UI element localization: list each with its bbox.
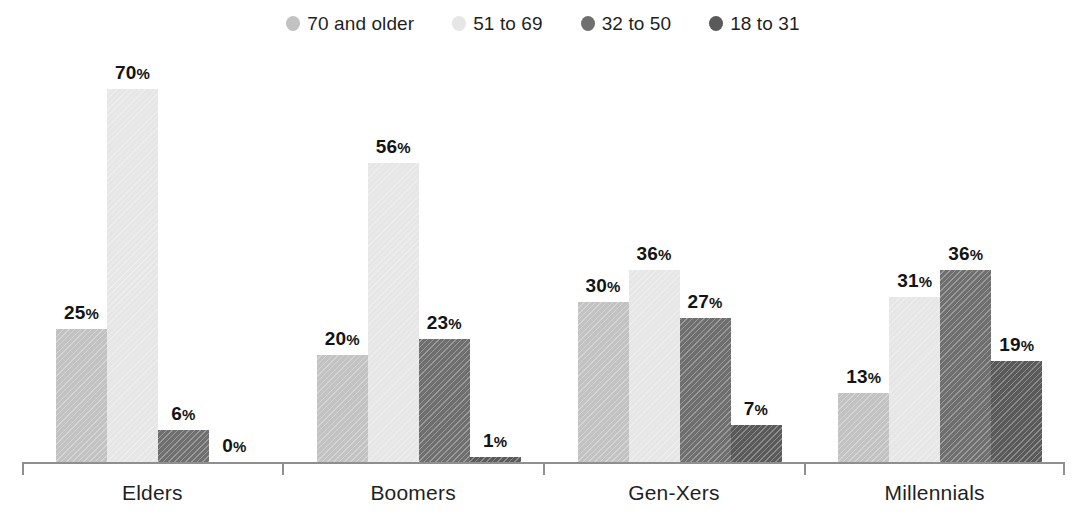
bar-value-label: 30% [585,276,620,295]
legend-swatch-icon [452,16,466,31]
bar-group-bars: 25%70%6%0% [22,46,283,462]
legend-item-label: 18 to 31 [730,14,799,33]
bar-slot: 31% [889,46,940,462]
bar-slot: 6% [158,46,209,462]
legend-item-70-and-older[interactable]: 70 and older [286,14,414,33]
bar[interactable] [56,329,107,462]
bar-group-bars: 30%36%27%7% [544,46,805,462]
category-label: Boomers [283,478,544,508]
legend-item-label: 70 and older [307,14,414,33]
x-axis-tick [543,462,545,475]
bar[interactable] [680,318,731,462]
bar-slot: 30% [578,46,629,462]
bar[interactable] [731,425,782,462]
category-label: Millennials [804,478,1065,508]
bar-slot: 20% [317,46,368,462]
bar-slot: 36% [940,46,991,462]
legend-item-32-to-50[interactable]: 32 to 50 [581,14,671,33]
bar[interactable] [158,430,209,462]
bar-group-gen-xers: 30%36%27%7% [544,46,805,462]
bar[interactable] [578,302,629,462]
bar[interactable] [419,339,470,462]
bar-groups: 25%70%6%0%20%56%23%1%30%36%27%7%13%31%36… [22,46,1065,462]
bar-slot: 25% [56,46,107,462]
bar[interactable] [838,393,889,462]
legend-item-label: 32 to 50 [602,14,671,33]
bar-value-label: 20% [325,329,360,348]
bar-slot: 70% [107,46,158,462]
bar-group-boomers: 20%56%23%1% [283,46,544,462]
legend-swatch-icon [286,16,300,31]
bar[interactable] [317,355,368,462]
bar-slot: 23% [419,46,470,462]
category-labels: EldersBoomersGen-XersMillennials [22,478,1065,508]
legend-item-51-to-69[interactable]: 51 to 69 [452,14,542,33]
bar-slot: 1% [470,46,521,462]
bar-value-label: 36% [948,244,983,263]
bar[interactable] [368,163,419,462]
bar-slot: 7% [731,46,782,462]
bar-value-label: 23% [427,313,462,332]
bar-value-label: 7% [744,399,768,418]
category-label: Gen-Xers [544,478,805,508]
bar[interactable] [107,89,158,462]
x-axis-tick [282,462,284,475]
x-axis-tick [22,462,24,475]
bar[interactable] [991,361,1042,462]
bar-group-bars: 20%56%23%1% [283,46,544,462]
bar[interactable] [940,270,991,462]
bar[interactable] [629,270,680,462]
bar-slot: 56% [368,46,419,462]
bar-value-label: 6% [171,404,195,423]
bar-value-label: 70% [115,63,150,82]
bar-value-label: 13% [846,367,881,386]
bar-value-label: 27% [687,292,722,311]
bar-chart: 70 and older 51 to 69 32 to 50 18 to 31 … [0,0,1086,518]
legend-swatch-icon [709,16,723,31]
bar-slot: 36% [629,46,680,462]
bar-value-label: 31% [897,271,932,290]
bar[interactable] [889,297,940,462]
legend-item-label: 51 to 69 [473,14,542,33]
x-axis-tick [804,462,806,475]
bar-group-bars: 13%31%36%19% [804,46,1065,462]
bar-value-label: 1% [483,431,507,450]
bar-value-label: 36% [636,244,671,263]
bar-group-millennials: 13%31%36%19% [804,46,1065,462]
bar-slot: 27% [680,46,731,462]
bar-group-elders: 25%70%6%0% [22,46,283,462]
bar-slot: 0% [209,46,260,462]
legend-item-18-to-31[interactable]: 18 to 31 [709,14,799,33]
bar-slot: 19% [991,46,1042,462]
category-label: Elders [22,478,283,508]
x-axis-tick [1063,462,1065,475]
bar-value-label: 0% [222,436,246,455]
bar-slot: 13% [838,46,889,462]
bar-value-label: 19% [999,335,1034,354]
bar-value-label: 56% [376,137,411,156]
plot-area: 25%70%6%0%20%56%23%1%30%36%27%7%13%31%36… [22,46,1065,462]
bar-value-label: 25% [64,303,99,322]
legend-swatch-icon [581,16,595,31]
chart-legend: 70 and older 51 to 69 32 to 50 18 to 31 [0,14,1086,33]
